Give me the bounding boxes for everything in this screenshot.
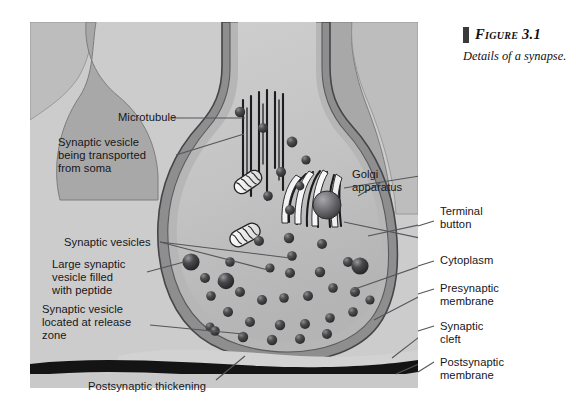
figure-panel: Microtubule Synaptic vesicle being trans… [0,0,576,414]
label-large-vesicle-peptide: Large synaptic vesicle filled with pepti… [52,258,125,298]
leader-postsyn-ext [418,362,434,372]
label-cytoplasm: Cytoplasm [440,254,493,267]
leader-cytoplasm-ext [418,261,434,266]
figure-number: Figure 3.1 [475,26,541,43]
label-vesicle-release-zone: Synaptic vesicle located at release zone [42,303,131,343]
label-synaptic-vesicles: Synaptic vesicles [64,236,151,249]
leader-presynaptic-ext [418,289,434,294]
label-terminal-button: Terminal button [440,205,483,231]
leader-terminal-button-ext [418,221,434,226]
figure-bar-icon [463,27,469,43]
figure-title: Figure 3.1 [463,26,573,43]
label-microtubule: Microtubule [118,111,176,124]
label-presynaptic-membrane: Presynaptic membrane [440,282,499,308]
figure-caption: Details of a synapse. [463,49,575,63]
label-golgi-apparatus: Golgi apparatus [352,168,402,194]
label-synaptic-cleft: Synaptic cleft [440,320,483,346]
label-postsynaptic-membrane: Postsynaptic membrane [440,356,504,382]
label-vesicle-transported: Synaptic vesicle being transported from … [58,136,146,176]
leader-cleft-ext [418,326,434,331]
label-postsynaptic-thickening: Postsynaptic thickening [88,380,206,393]
